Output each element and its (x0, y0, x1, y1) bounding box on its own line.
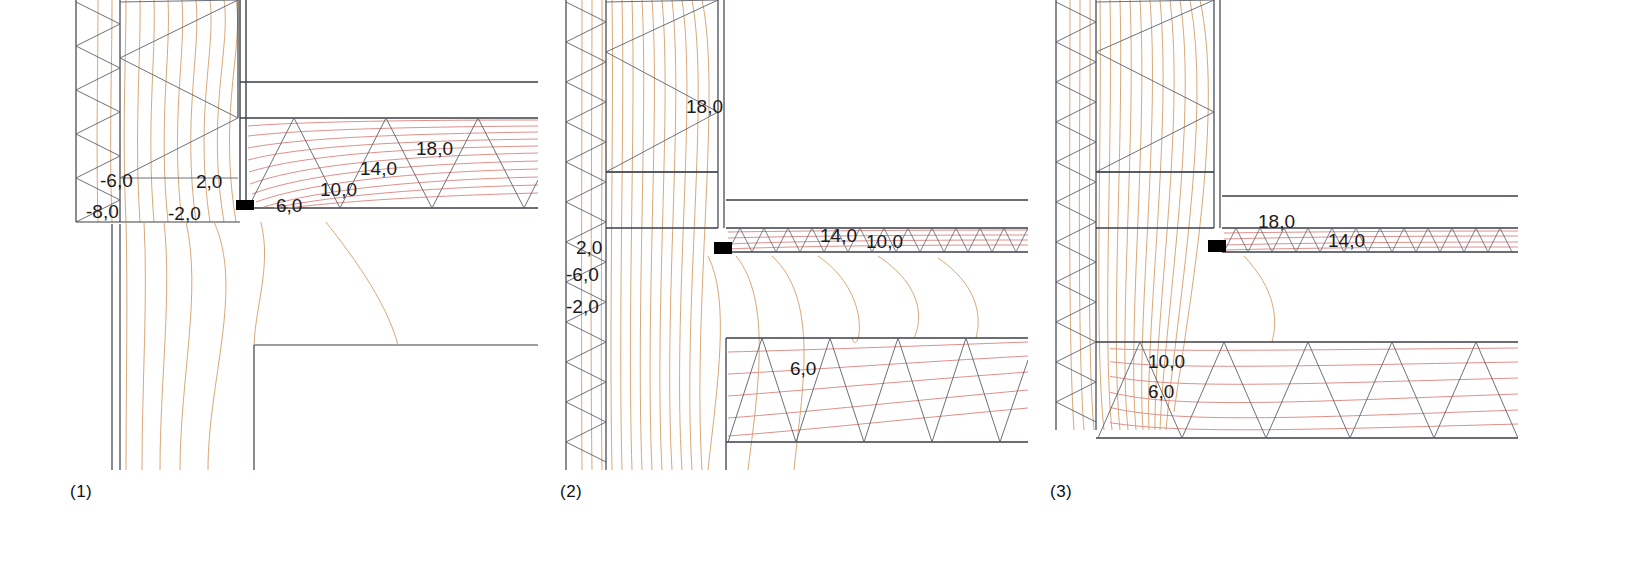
figure-canvas: -8,0 -6,0 -2,0 2,0 6,0 10,0 14,0 18,0 (1… (0, 0, 1648, 564)
iso-label: 18,0 (416, 138, 453, 159)
iso-label: 10,0 (866, 231, 903, 252)
iso-label: 10,0 (320, 179, 357, 200)
panel-1-caption: (1) (70, 482, 92, 502)
panel-3: 18,0 14,0 10,0 6,0 (3) (1048, 0, 1568, 564)
panel-1-drawing: -8,0 -6,0 -2,0 2,0 6,0 10,0 14,0 18,0 (68, 0, 538, 470)
isotherms-cold-drop (1244, 256, 1275, 342)
iso-label: 18,0 (1258, 211, 1295, 232)
iso-label: -2,0 (566, 296, 599, 317)
iso-label: 18,0 (686, 96, 723, 117)
wall-insulation-hatch (566, 2, 606, 462)
panel-3-caption: (3) (1050, 482, 1072, 502)
iso-label: 2,0 (576, 237, 602, 258)
iso-label: -8,0 (86, 201, 119, 222)
panel-3-drawing: 18,0 14,0 10,0 6,0 (1048, 0, 1518, 470)
iso-label: 10,0 (1148, 351, 1185, 372)
iso-label: 6,0 (276, 195, 302, 216)
panel-2: 18,0 2,0 -6,0 -2,0 14,0 10,0 6,0 (2) (558, 0, 1078, 564)
base-insulation-hatch (728, 338, 1028, 442)
iso-label: 6,0 (1148, 381, 1174, 402)
wall-core-hatch (1096, 0, 1214, 172)
iso-label: -6,0 (566, 264, 599, 285)
iso-label: 6,0 (790, 358, 816, 379)
isotherms-cold-lower (126, 212, 398, 470)
iso-label: 14,0 (820, 225, 857, 246)
iso-label: 2,0 (196, 171, 222, 192)
iso-label: 14,0 (360, 158, 397, 179)
isotherms-cold-lower (708, 256, 978, 470)
thermal-break-connector (236, 200, 254, 210)
thermal-break-connector (1208, 240, 1226, 252)
iso-label: -6,0 (100, 170, 133, 191)
panel-1: -8,0 -6,0 -2,0 2,0 6,0 10,0 14,0 18,0 (1… (68, 0, 588, 564)
iso-label: 14,0 (1328, 230, 1365, 251)
panel-2-drawing: 18,0 2,0 -6,0 -2,0 14,0 10,0 6,0 (558, 0, 1028, 470)
isotherms-cold-wall (582, 0, 709, 470)
iso-label: -2,0 (168, 203, 201, 224)
panel-2-caption: (2) (560, 482, 582, 502)
isotherms-warm-slab (1224, 231, 1518, 250)
panel-3-labels: 18,0 14,0 10,0 6,0 (1148, 211, 1365, 402)
thermal-break-connector (714, 242, 732, 254)
